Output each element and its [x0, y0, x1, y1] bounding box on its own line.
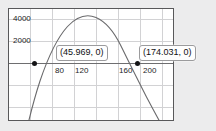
annotation-callout-left: (45.969, 0) — [56, 45, 108, 61]
chart-screenshot: 4000 2000 80 120 160 200 (45.969, 0) (17… — [0, 0, 216, 131]
x-tick-label: 120 — [75, 66, 88, 75]
x-tick-label: 200 — [143, 66, 156, 75]
x-tick-label: 160 — [119, 66, 132, 75]
y-tick-label: 4000 — [13, 14, 31, 23]
y-tick-label: 2000 — [13, 36, 31, 45]
plot-area: 4000 2000 80 120 160 200 — [8, 8, 174, 121]
x-tick-label: 80 — [55, 66, 64, 75]
annotation-callout-right: (174.031, 0) — [139, 45, 196, 61]
root-marker-left — [32, 61, 37, 66]
root-marker-right — [135, 61, 140, 66]
